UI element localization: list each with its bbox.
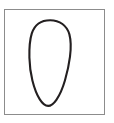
figure-frame <box>0 0 114 123</box>
figure-canvas: Hand-drawn vertical oval (egg shape) cen… <box>0 0 114 123</box>
frame-border <box>5 10 105 115</box>
